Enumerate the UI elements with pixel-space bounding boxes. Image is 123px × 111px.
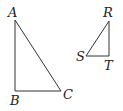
vertex-label-s: S — [76, 49, 85, 64]
vertex-label-a: A — [7, 5, 17, 20]
vertex-label-b: B — [9, 93, 20, 108]
triangles-diagram: A B C R S T — [0, 0, 123, 111]
vertex-label-r: R — [102, 5, 113, 20]
triangle-rst — [86, 21, 109, 56]
vertex-label-t: T — [104, 58, 114, 73]
triangle-abc — [15, 20, 61, 91]
vertex-label-c: C — [63, 87, 73, 102]
